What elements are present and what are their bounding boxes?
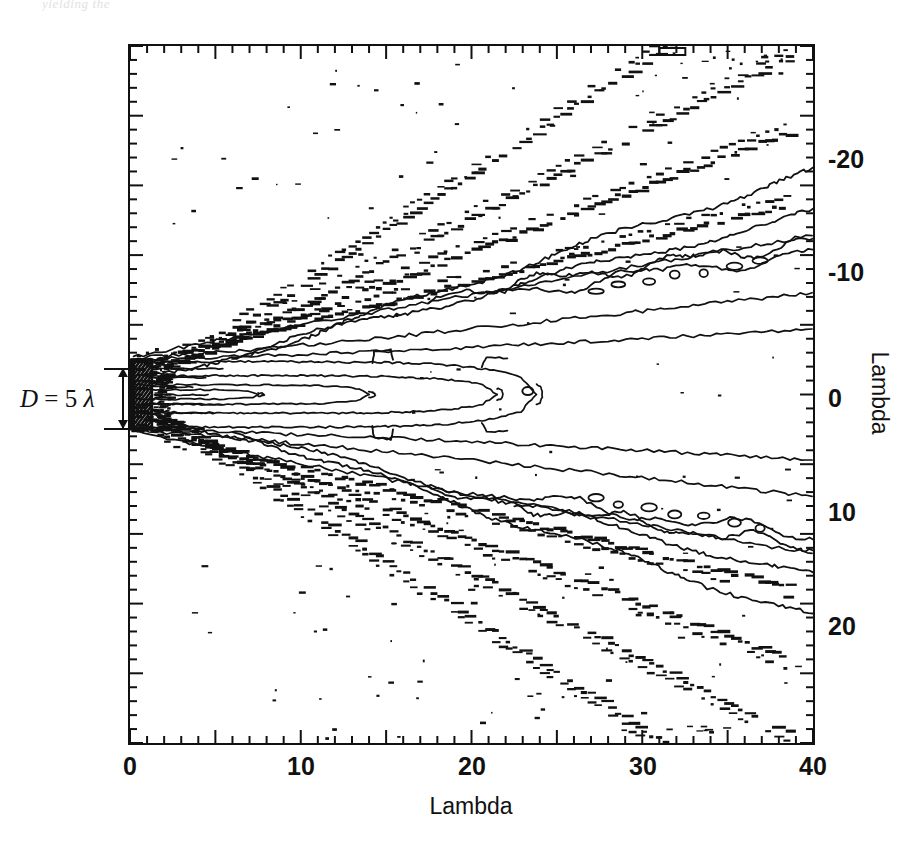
y-tick-10: 10 — [828, 498, 856, 527]
x-tick-30: 30 — [629, 752, 657, 781]
y-tick-minus10: -10 — [828, 258, 864, 287]
x-tick-40: 40 — [799, 752, 827, 781]
page-bleed-text: yielding the — [42, 0, 582, 16]
contour-plot-svg — [130, 46, 813, 743]
figure-contour-plot: yielding the 0 10 20 30 40 -20 -10 0 10 … — [0, 0, 917, 845]
dimension-arrow-down-icon — [118, 420, 128, 429]
aperture-label: D = 5 λ — [20, 384, 95, 414]
x-tick-10: 10 — [287, 752, 315, 781]
plot-frame — [128, 44, 815, 745]
x-tick-20: 20 — [458, 752, 486, 781]
x-axis-title: Lambda — [429, 793, 512, 820]
plot-canvas — [130, 46, 813, 743]
aperture-label-d: D — [20, 385, 38, 412]
y-axis-title: Lambda — [866, 351, 893, 434]
x-tick-0: 0 — [123, 752, 137, 781]
aperture-dimension-annotation: D = 5 λ — [20, 352, 140, 448]
aperture-label-eq: = 5 — [44, 385, 77, 412]
y-tick-20: 20 — [828, 612, 856, 641]
aperture-label-lambda: λ — [83, 384, 94, 413]
dimension-arrow-up-icon — [118, 368, 128, 377]
y-tick-minus20: -20 — [828, 145, 864, 174]
y-tick-0: 0 — [828, 384, 842, 413]
